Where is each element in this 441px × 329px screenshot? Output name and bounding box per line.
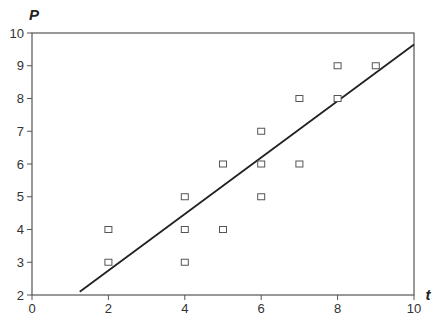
x-axis: 0246810: [28, 295, 421, 316]
data-point-marker: [258, 194, 265, 200]
y-tick-label: 3: [17, 255, 24, 270]
data-point-marker: [372, 63, 379, 69]
x-tick-label: 10: [407, 301, 421, 316]
x-tick-label: 2: [105, 301, 112, 316]
y-tick-label: 8: [17, 91, 24, 106]
data-point-marker: [181, 227, 188, 233]
y-axis: 2345678910: [10, 26, 32, 303]
data-point-marker: [296, 161, 303, 167]
x-tick-label: 8: [334, 301, 341, 316]
data-point-marker: [296, 96, 303, 102]
y-axis-title: P: [29, 6, 40, 23]
x-tick-label: 6: [258, 301, 265, 316]
regression-line: [80, 44, 414, 291]
data-point-marker: [258, 128, 265, 134]
data-point-marker: [220, 161, 227, 167]
data-point-marker: [105, 227, 112, 233]
data-point-marker: [220, 227, 227, 233]
x-axis-title: t: [426, 286, 432, 303]
y-tick-label: 4: [17, 222, 24, 237]
scatter-chart: 2345678910 0246810 P t: [0, 0, 441, 329]
y-tick-label: 7: [17, 124, 24, 139]
data-point-marker: [258, 161, 265, 167]
x-tick-label: 4: [181, 301, 188, 316]
data-point-marker: [334, 96, 341, 102]
data-point-marker: [105, 259, 112, 265]
data-point-marker: [334, 63, 341, 69]
data-point-marker: [181, 259, 188, 265]
x-tick-label: 0: [28, 301, 35, 316]
y-tick-label: 10: [10, 26, 24, 41]
y-tick-label: 2: [17, 288, 24, 303]
y-tick-label: 5: [17, 189, 24, 204]
y-tick-label: 6: [17, 157, 24, 172]
data-points: [105, 63, 379, 266]
y-tick-label: 9: [17, 58, 24, 73]
data-point-marker: [181, 194, 188, 200]
